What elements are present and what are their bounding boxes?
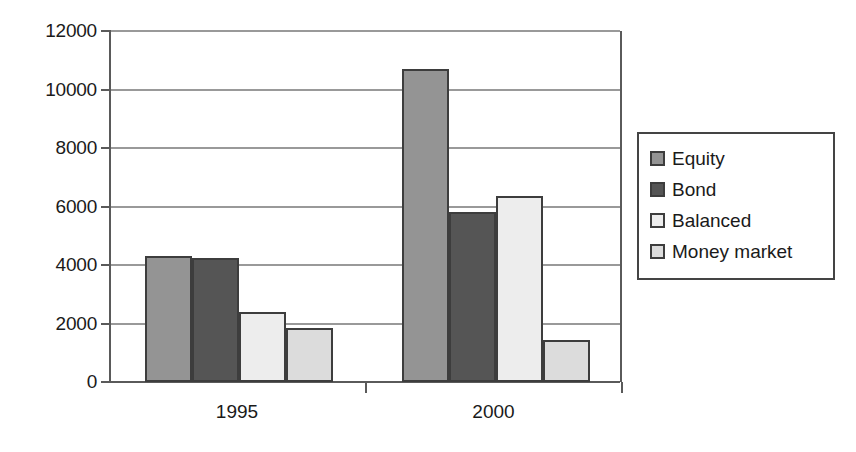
x-tick-label: 1995 — [143, 402, 331, 421]
y-tick-label: 10000 — [17, 80, 97, 99]
bar — [239, 312, 286, 382]
legend-item: Money market — [650, 236, 823, 267]
bar — [192, 258, 239, 382]
chart-legend: EquityBondBalancedMoney market — [637, 132, 835, 280]
y-tick-label: 6000 — [17, 197, 97, 216]
y-tick-mark — [101, 147, 111, 149]
legend-item: Balanced — [650, 205, 823, 236]
y-tick-label: 12000 — [17, 21, 97, 40]
y-tick-mark — [101, 264, 111, 266]
bar — [286, 328, 333, 382]
y-tick-label: 4000 — [17, 255, 97, 274]
bar — [402, 69, 449, 382]
legend-swatch-icon — [650, 244, 665, 259]
y-tick-label: 2000 — [17, 314, 97, 333]
y-tick-label: 8000 — [17, 138, 97, 157]
gridline — [111, 147, 620, 149]
x-tick-label: 2000 — [400, 402, 588, 421]
bar — [543, 340, 590, 382]
y-tick-mark — [101, 323, 111, 325]
bar-chart: 020004000600080001000012000 19952000 Equ… — [0, 0, 856, 452]
y-tick-mark — [101, 30, 111, 32]
legend-swatch-icon — [650, 151, 665, 166]
bar — [496, 196, 543, 382]
y-tick-label: 0 — [17, 372, 97, 391]
x-tick-mark — [621, 382, 623, 393]
legend-label: Balanced — [672, 211, 751, 230]
y-axis: 020004000600080001000012000 — [0, 0, 97, 452]
gridline — [111, 89, 620, 91]
bar — [145, 256, 192, 382]
legend-swatch-icon — [650, 182, 665, 197]
legend-item: Bond — [650, 174, 823, 205]
y-tick-mark — [101, 89, 111, 91]
legend-label: Equity — [672, 149, 725, 168]
y-tick-mark — [101, 381, 111, 383]
x-tick-mark — [365, 382, 367, 393]
bar — [449, 212, 496, 382]
legend-label: Bond — [672, 180, 716, 199]
legend-item: Equity — [650, 143, 823, 174]
legend-swatch-icon — [650, 213, 665, 228]
gridline — [111, 30, 620, 32]
gridline — [111, 206, 620, 208]
legend-label: Money market — [672, 242, 792, 261]
plot-area — [109, 31, 622, 382]
y-tick-mark — [101, 206, 111, 208]
